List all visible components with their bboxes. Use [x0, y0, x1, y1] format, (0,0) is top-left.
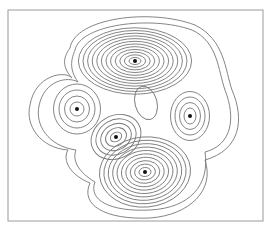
maximum-dot-center [114, 135, 118, 139]
contour-plot [0, 0, 272, 229]
maximum-dot-bottom [143, 170, 147, 174]
contour-rings [54, 28, 210, 211]
saddle-loop [131, 84, 161, 123]
maximum-dot-left [75, 107, 79, 111]
maximum-dot-top [133, 59, 137, 63]
contour-diagram [0, 0, 272, 229]
maximum-dot-right [188, 114, 192, 118]
